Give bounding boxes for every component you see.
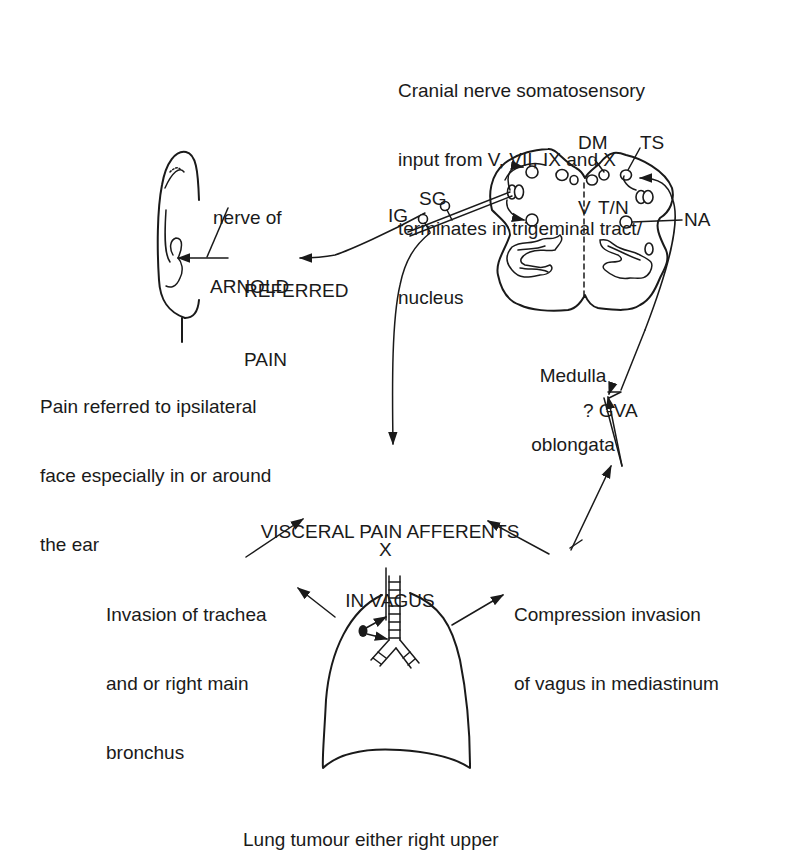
left-cause-line-1: Invasion of trachea [106, 603, 267, 626]
cranial-note-line-3: terminates in trigeminal tract/ [398, 217, 645, 240]
nerve-of-arnold-line-1: nerve of [210, 206, 289, 229]
left-cause-line-2: and or right main [106, 672, 267, 695]
left-cause-line-3: bronchus [106, 741, 267, 764]
label-v: V [578, 196, 591, 219]
medulla-caption-line-2: oblongata [498, 433, 648, 456]
left-cause-label: Invasion of trachea and or right main br… [106, 557, 267, 810]
cranial-note-line-2: input from V, VII, IX and X [398, 148, 645, 171]
visceral-pain-label: VISCERAL PAIN AFFERENTS IN VAGUS [240, 474, 540, 658]
label-ts: TS [640, 131, 664, 154]
label-na: NA [684, 208, 710, 231]
diagram-canvas: Cranial nerve somatosensory input from V… [0, 0, 786, 851]
referred-pain-line-1: REFERRED [244, 279, 349, 302]
cranial-note-line-4: nucleus [398, 286, 645, 309]
cranial-note-line-1: Cranial nerve somatosensory [398, 79, 645, 102]
label-tn: T/N [598, 196, 629, 219]
label-sg: SG [419, 187, 446, 210]
label-dm: DM [578, 131, 608, 154]
right-cause-label: Compression invasion of vagus in mediast… [514, 557, 719, 741]
medulla-caption-line-1: Medulla [498, 364, 648, 387]
lung-caption: Lung tumour either right upper lobe or a… [243, 782, 529, 851]
vagus-x-label: X [379, 538, 392, 561]
right-cause-line-2: of vagus in mediastinum [514, 672, 719, 695]
label-ig: IG [388, 204, 408, 227]
ear-icon [158, 152, 199, 342]
visceral-pain-line-2: IN VAGUS [240, 589, 540, 612]
ear-caption-line-2: face especially in or around [40, 464, 271, 487]
gva-label: ? GVA [583, 399, 638, 422]
lung-caption-line-1: Lung tumour either right upper [243, 828, 529, 851]
ear-caption-line-1: Pain referred to ipsilateral [40, 395, 271, 418]
right-cause-line-1: Compression invasion [514, 603, 719, 626]
ear-caption-line-3: the ear [40, 533, 271, 556]
